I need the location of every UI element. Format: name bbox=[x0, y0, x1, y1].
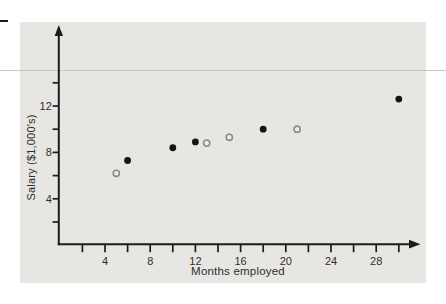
data-point-open bbox=[226, 134, 232, 140]
data-point-filled bbox=[124, 157, 131, 164]
data-point-open bbox=[294, 126, 300, 132]
x-tick-label: 8 bbox=[147, 255, 153, 267]
x-tick-label: 28 bbox=[370, 255, 382, 267]
scatter-plot: 4812162024284812 bbox=[0, 0, 446, 304]
x-axis-arrowhead bbox=[409, 240, 421, 249]
y-tick-label: 12 bbox=[40, 100, 52, 112]
data-point-filled bbox=[169, 144, 176, 151]
x-tick-label: 24 bbox=[325, 255, 337, 267]
y-axis-arrowhead bbox=[55, 25, 63, 36]
x-tick-label: 4 bbox=[102, 255, 108, 267]
data-point-filled bbox=[260, 126, 267, 133]
data-point-open bbox=[204, 140, 210, 146]
y-tick-label: 8 bbox=[46, 146, 52, 158]
data-point-open bbox=[113, 170, 119, 176]
y-tick-label: 4 bbox=[46, 193, 52, 205]
data-point-filled bbox=[395, 96, 402, 103]
y-axis-title: Salary ($1,000's) bbox=[24, 98, 39, 218]
data-point-filled bbox=[192, 139, 199, 146]
x-axis-title: Months employed bbox=[168, 265, 308, 277]
scanned-page: 4812162024284812 Salary ($1,000's) Month… bbox=[0, 0, 446, 304]
